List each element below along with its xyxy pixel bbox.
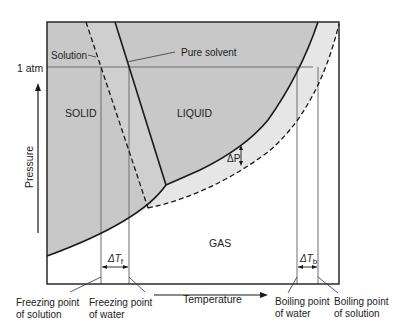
bp-solution-label-line2: of solution: [334, 308, 380, 319]
y-tick-1atm: 1 atm: [17, 62, 44, 74]
delta-tb-subscript: b: [313, 257, 318, 266]
fp-water-label-line2: of water: [89, 309, 125, 320]
bp-solution-pointer: [318, 277, 338, 293]
delta-tf-arrowhead-right: [123, 265, 128, 269]
delta-tf-arrowhead-left: [102, 265, 107, 269]
pressure-arrowhead-icon: [35, 83, 41, 91]
temperature-arrowhead-icon: [260, 292, 268, 298]
delta-tb-prefix: ΔT: [299, 253, 314, 264]
x-axis-label: Temperature: [183, 293, 242, 305]
delta-tf-prefix: ΔT: [107, 253, 122, 264]
delta-tb-arrowhead-left: [298, 265, 303, 269]
delta-tb-label: ΔTb: [299, 253, 318, 266]
liquid-region-label: LIQUID: [177, 107, 212, 119]
y-axis-label: Pressure: [23, 146, 35, 188]
bp-water-pointer: [288, 277, 297, 293]
gas-region-label: GAS: [209, 237, 231, 249]
bp-water-label-line2: of water: [275, 308, 311, 319]
fp-water-label-line1: Freezing point: [89, 297, 153, 308]
delta-p-label: ΔP: [227, 153, 241, 164]
pure-solvent-curve-label: Pure solvent: [181, 47, 237, 58]
phase-diagram: 1 atm Pressure Temperature SOLID LIQUID …: [0, 0, 404, 334]
delta-p-text: ΔP: [227, 153, 241, 164]
delta-tf-label: ΔTf: [107, 253, 124, 266]
fp-solution-label-line1: Freezing point: [16, 297, 80, 308]
delta-tf-subscript: f: [121, 257, 124, 266]
fp-solution-label-line2: of solution: [16, 309, 62, 320]
solution-curve-label: Solution: [51, 50, 87, 61]
bp-water-label-line1: Boiling point: [275, 296, 330, 307]
bp-solution-label-line1: Boiling point: [334, 296, 389, 307]
solid-region-label: SOLID: [65, 107, 97, 119]
